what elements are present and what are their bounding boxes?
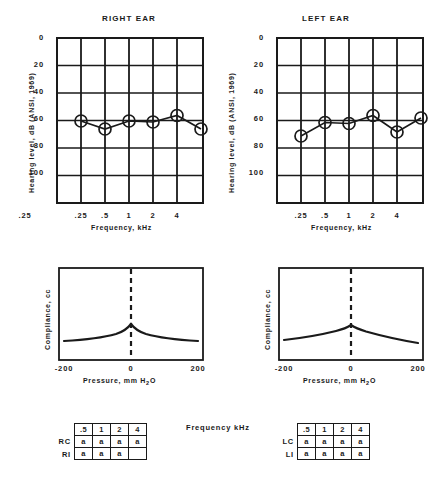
reflex-cell-rc-2: a	[111, 436, 129, 448]
reflex-cell-li-2: a	[334, 448, 352, 460]
right-audiogram-ytick-40: 40	[24, 87, 44, 96]
left-tympanogram-xtick-0: 0	[333, 364, 369, 373]
right-audiogram-xtick-025: .25	[13, 211, 37, 220]
right-audiogram-ytick-100: 100	[19, 168, 44, 177]
reflex-row-label-lc: LC	[274, 437, 294, 446]
left-audiogram-x-axis-label: Frequency, kHz	[311, 224, 372, 231]
left-audiogram-ytick-80: 80	[244, 141, 264, 150]
left-audiogram-ytick-40: 40	[244, 87, 264, 96]
right-tympanogram-plot	[58, 267, 204, 361]
left-audiogram-xtick-1: 1	[337, 211, 361, 220]
reflex-cell-rc-4: a	[129, 436, 147, 448]
left-audiogram-ytick-20: 20	[244, 60, 264, 69]
right-reflex-header-row: .5 1 2 4	[75, 424, 147, 436]
right-tympanogram-xtick-neg200: -200	[46, 364, 82, 373]
left-reflex-row-li: a a a a	[298, 448, 370, 460]
left-audiogram-xtick-025: .25	[289, 211, 313, 220]
reflex-cell-li-05: a	[298, 448, 316, 460]
reflex-row-label-ri: RI	[51, 450, 71, 459]
reflex-cell-li-1: a	[316, 448, 334, 460]
left-tympanogram-x-axis-label-text: Pressure, mm H	[303, 377, 366, 384]
right-audiogram-xtick-4: 4	[165, 211, 189, 220]
right-audiogram-plot	[56, 37, 204, 204]
right-reflex-table: .5 1 2 4 a a a a a a a	[74, 423, 147, 460]
left-audiogram-ytick-60: 60	[244, 114, 264, 123]
left-audiogram-title: LEFT EAR	[302, 14, 350, 23]
reflex-cell-ri-05: a	[75, 448, 93, 460]
right-audiogram-xtick-2: 2	[141, 211, 165, 220]
left-tympanogram-y-axis-label: Compliance, cc	[264, 289, 271, 350]
left-reflex-row-lc: a a a a	[298, 436, 370, 448]
right-audiogram-xtick-1: 1	[117, 211, 141, 220]
reflex-cell-li-4: a	[352, 448, 370, 460]
reflex-cell-lc-05: a	[298, 436, 316, 448]
right-audiogram-x-axis-label: Frequency, kHz	[91, 224, 152, 231]
right-tympanogram-xtick-200: 200	[180, 364, 216, 373]
reflex-cell-rc-05: a	[75, 436, 93, 448]
left-audiogram-ytick-100: 100	[239, 168, 264, 177]
left-audiogram-xtick-4: 4	[385, 211, 409, 220]
left-reflex-header-1: 1	[316, 424, 334, 436]
left-reflex-header-2: 2	[334, 424, 352, 436]
right-tympanogram-x-axis-label: Pressure, mm H2O	[83, 377, 156, 386]
right-tympanogram-y-axis-label: Compliance, cc	[44, 289, 51, 350]
reflex-cell-ri-4	[129, 448, 147, 460]
left-tympanogram-x-axis-label-tail: O	[370, 377, 376, 384]
right-reflex-header-2: 2	[111, 424, 129, 436]
right-audiogram-ytick-60: 60	[24, 114, 44, 123]
right-audiogram-xtick-05: .5	[93, 211, 117, 220]
right-reflex-row-rc: a a a a	[75, 436, 147, 448]
audiology-report-page: RIGHT EAR Hearing level, dB (ANSI, 1969)…	[0, 0, 441, 493]
left-audiogram-ytick-0: 0	[244, 33, 264, 42]
right-reflex-header-05: .5	[75, 424, 93, 436]
right-tympanogram-x-axis-label-text: Pressure, mm H	[83, 377, 146, 384]
left-reflex-table: .5 1 2 4 a a a a a a a a	[297, 423, 370, 460]
reflex-row-label-rc: RC	[51, 437, 71, 446]
left-audiogram-xtick-05: .5	[313, 211, 337, 220]
left-reflex-header-row: .5 1 2 4	[298, 424, 370, 436]
right-tympanogram-xtick-0: 0	[113, 364, 149, 373]
right-tympanogram-x-axis-label-tail: O	[150, 377, 156, 384]
left-audiogram-xtick-2: 2	[361, 211, 385, 220]
left-audiogram-gridlines-horizontal	[277, 66, 423, 176]
right-audiogram-ytick-20: 20	[24, 60, 44, 69]
right-reflex-row-ri: a a a	[75, 448, 147, 460]
right-audiogram-ytick-80: 80	[24, 141, 44, 150]
left-reflex-header-05: .5	[298, 424, 316, 436]
left-tympanogram-xtick-200: 200	[400, 364, 436, 373]
left-tympanogram-xtick-neg200: -200	[266, 364, 302, 373]
left-audiogram-y-axis-label: Hearing level, dB (ANSI, 1969)	[228, 72, 235, 193]
right-reflex-header-4: 4	[129, 424, 147, 436]
reflex-frequency-caption: Frequency kHz	[186, 423, 250, 432]
right-audiogram-title: RIGHT EAR	[102, 14, 156, 23]
right-reflex-header-1: 1	[93, 424, 111, 436]
reflex-cell-lc-1: a	[316, 436, 334, 448]
left-tympanogram-plot	[278, 267, 424, 361]
left-reflex-header-4: 4	[352, 424, 370, 436]
reflex-cell-lc-4: a	[352, 436, 370, 448]
reflex-cell-ri-2: a	[111, 448, 129, 460]
right-audiogram-xtick-025-pos: .25	[69, 211, 93, 220]
right-audiogram-ytick-0: 0	[24, 33, 44, 42]
left-audiogram-plot	[276, 37, 424, 204]
reflex-cell-ri-1: a	[93, 448, 111, 460]
reflex-cell-rc-1: a	[93, 436, 111, 448]
left-tympanogram-x-axis-label: Pressure, mm H2O	[303, 377, 376, 386]
reflex-cell-lc-2: a	[334, 436, 352, 448]
reflex-row-label-li: LI	[274, 450, 294, 459]
